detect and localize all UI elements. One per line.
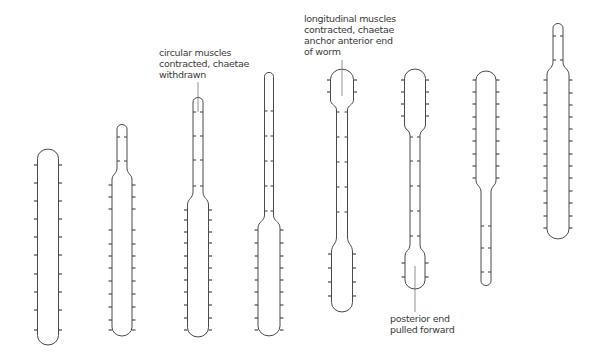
worm-body-outline (188, 98, 209, 337)
label-line: posterior end (390, 313, 454, 324)
label-line: of worm (304, 46, 396, 57)
worm-body-outline (258, 72, 280, 335)
label-line: contracted, chaetae (304, 24, 396, 35)
worm-body-outline (112, 125, 132, 337)
label-posterior-end: posterior end pulled forward (390, 313, 454, 335)
worm-body-outline (331, 69, 354, 312)
worm-body-outline (38, 149, 59, 345)
worm-body-outline (405, 69, 426, 289)
label-longitudinal-muscles: longitudinal muscles contracted, chaetae… (304, 13, 396, 57)
label-line: withdrawn (159, 69, 249, 80)
worm-stage-5 (327, 69, 357, 312)
worm-stage-7 (473, 71, 500, 286)
worm-stage-2 (109, 125, 136, 337)
worm-body-outline (476, 71, 496, 286)
worm-stage-8 (544, 24, 573, 239)
worm-stage-6 (401, 69, 429, 289)
label-line: anchor anterior end (304, 35, 396, 46)
worm-body-outline (547, 24, 569, 239)
worm-stage-4 (255, 72, 284, 335)
label-circular-muscles: circular muscles contracted, chaetae wit… (159, 47, 249, 80)
label-line: circular muscles (159, 47, 249, 58)
worm-diagram (0, 0, 602, 353)
worm-stage-3 (184, 98, 212, 337)
label-line: longitudinal muscles (304, 13, 396, 24)
label-line: pulled forward (390, 324, 454, 335)
label-line: contracted, chaetae (159, 58, 249, 69)
worm-stage-1 (34, 149, 62, 345)
